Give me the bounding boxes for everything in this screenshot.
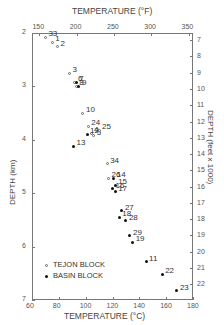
left-axis-title: DEPTH (km) — [8, 160, 17, 205]
x-tick-mark-top — [114, 33, 115, 36]
y-tick-ft: 21 — [197, 264, 205, 271]
x-tick-f: 300 — [144, 23, 156, 30]
point-label: 23 — [180, 284, 189, 292]
y-tick-mark — [32, 140, 35, 141]
y-tick-ft: 13 — [197, 134, 205, 141]
y-tick-km: 2 — [22, 28, 26, 35]
point-label: 12 — [90, 127, 99, 135]
y-tick-km: 3 — [22, 81, 26, 88]
legend-tejon-label: TEJON BLOCK — [53, 260, 105, 269]
data-point — [107, 177, 110, 180]
x-tick-c: 120 — [107, 302, 119, 309]
data-point — [86, 133, 89, 136]
x-tick-mark — [166, 297, 167, 300]
y-tick-ft: 10 — [197, 85, 205, 92]
x-tick-f: 250 — [107, 23, 119, 30]
y-tick-mark-right — [190, 187, 193, 188]
point-label: 3 — [73, 66, 77, 74]
data-point — [145, 260, 148, 263]
data-point — [118, 216, 121, 219]
x-tick-mark-top — [189, 33, 190, 36]
point-label: 25 — [102, 123, 111, 131]
y-tick-mark — [32, 86, 35, 87]
point-label: 34 — [110, 157, 119, 165]
x-tick-c: 100 — [80, 302, 92, 309]
y-tick-km: 5 — [22, 188, 26, 195]
x-tick-mark — [86, 297, 87, 300]
point-label: 22 — [165, 267, 174, 275]
y-tick-mark-right — [190, 219, 193, 220]
y-tick-mark-right — [190, 138, 193, 139]
point-label: 9 — [82, 79, 86, 87]
x-tick-mark-top — [151, 33, 152, 36]
y-tick-mark-right — [190, 252, 193, 253]
y-tick-mark-right — [190, 284, 193, 285]
legend-basin-label: BASIN BLOCK — [53, 271, 103, 280]
y-tick-ft: 22 — [197, 280, 205, 287]
x-tick-mark-top — [77, 33, 78, 36]
x-tick-mark — [59, 297, 60, 300]
x-tick-c: 80 — [53, 302, 61, 309]
x-tick-c: 160 — [160, 302, 172, 309]
y-tick-km: 7 — [22, 295, 26, 302]
x-tick-c: 180 — [187, 302, 199, 309]
x-tick-c: 140 — [133, 302, 145, 309]
y-tick-km: 6 — [22, 242, 26, 249]
y-tick-mark-right — [190, 170, 193, 171]
point-label: 13 — [77, 139, 86, 147]
point-label: 17 — [118, 185, 127, 193]
y-tick-ft: 17 — [197, 199, 205, 206]
x-tick-c: 60 — [26, 302, 34, 309]
y-tick-mark — [32, 193, 35, 194]
legend-tejon-marker — [45, 264, 48, 267]
y-tick-ft: 20 — [197, 248, 205, 255]
y-tick-ft: 11 — [197, 101, 204, 108]
y-tick-ft: 19 — [197, 231, 205, 238]
y-tick-ft: 18 — [197, 215, 205, 222]
x-tick-mark — [193, 297, 194, 300]
y-tick-mark-right — [190, 235, 193, 236]
data-point — [114, 190, 117, 193]
y-tick-mark-right — [190, 56, 193, 57]
y-tick-ft: 16 — [197, 183, 205, 190]
y-tick-ft: 8 — [197, 52, 201, 59]
x-tick-f: 150 — [32, 23, 44, 30]
data-point — [161, 273, 164, 276]
y-tick-mark-right — [190, 89, 193, 90]
point-label: 28 — [129, 214, 138, 222]
y-tick-mark-right — [190, 40, 193, 41]
y-tick-ft: 14 — [197, 150, 205, 157]
legend-basin-marker — [45, 275, 48, 278]
y-tick-ft: 7 — [197, 36, 201, 43]
y-tick-mark-right — [190, 268, 193, 269]
y-tick-mark — [32, 247, 35, 248]
data-point — [68, 72, 71, 75]
point-label: 10 — [86, 106, 95, 114]
point-label: 19 — [136, 235, 145, 243]
y-tick-mark — [32, 33, 35, 34]
point-label: 11 — [149, 255, 157, 263]
x-tick-mark-top — [39, 33, 40, 36]
x-tick-mark — [139, 297, 140, 300]
x-tick-f: 200 — [70, 23, 82, 30]
bottom-axis-title: TEMPERATURE (°C) — [64, 311, 145, 321]
data-point — [131, 241, 134, 244]
y-tick-mark-right — [190, 105, 193, 106]
data-point — [44, 36, 47, 39]
y-tick-km: 4 — [22, 135, 26, 142]
y-tick-mark-right — [190, 73, 193, 74]
point-label: 2 — [60, 40, 64, 48]
y-tick-mark-right — [190, 154, 193, 155]
point-label: 1 — [55, 35, 59, 43]
data-point — [51, 41, 54, 44]
y-tick-mark-right — [190, 122, 193, 123]
x-tick-f: 350 — [182, 23, 194, 30]
right-axis-title: DEPTH (feet x 1000) — [206, 110, 215, 184]
y-tick-mark — [32, 300, 35, 301]
data-point — [72, 145, 75, 148]
y-tick-mark-right — [190, 203, 193, 204]
y-tick-ft: 9 — [197, 69, 201, 76]
y-tick-ft: 15 — [197, 166, 205, 173]
data-point — [75, 81, 78, 84]
x-tick-mark — [113, 297, 114, 300]
